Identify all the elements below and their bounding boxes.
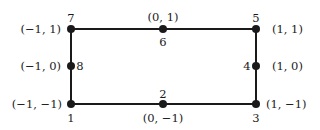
- node-1-coord: (−1, −1): [12, 97, 62, 111]
- node-7: [67, 25, 75, 33]
- node-7-coord: (−1, 1): [20, 22, 61, 36]
- node-5: [252, 25, 260, 33]
- node-2-number: 2: [159, 87, 166, 101]
- node-2: [159, 100, 167, 108]
- node-5-number: 5: [252, 11, 259, 25]
- node-6-number: 6: [159, 35, 166, 49]
- node-4-coord: (1, 0): [272, 59, 303, 73]
- node-6: [159, 25, 167, 33]
- node-3-coord: (1, −1): [266, 97, 307, 111]
- node-2-coord: (0, −1): [143, 111, 184, 125]
- node-8-number: 8: [76, 59, 83, 73]
- node-3: [252, 100, 260, 108]
- node-5-coord: (1, 1): [272, 22, 303, 36]
- node-6-coord: (0, 1): [148, 10, 179, 24]
- node-8-coord: (−1, 0): [20, 59, 61, 73]
- node-3-number: 3: [252, 111, 259, 125]
- node-4: [252, 62, 260, 70]
- element-diagram: 1 2 3 4 5 6 7 8 (−1, −1) (0, −1) (1, −1)…: [0, 0, 320, 130]
- node-7-number: 7: [67, 11, 74, 25]
- node-4-number: 4: [243, 59, 250, 73]
- node-1-number: 1: [67, 111, 74, 125]
- node-1: [67, 100, 75, 108]
- node-8: [67, 62, 75, 70]
